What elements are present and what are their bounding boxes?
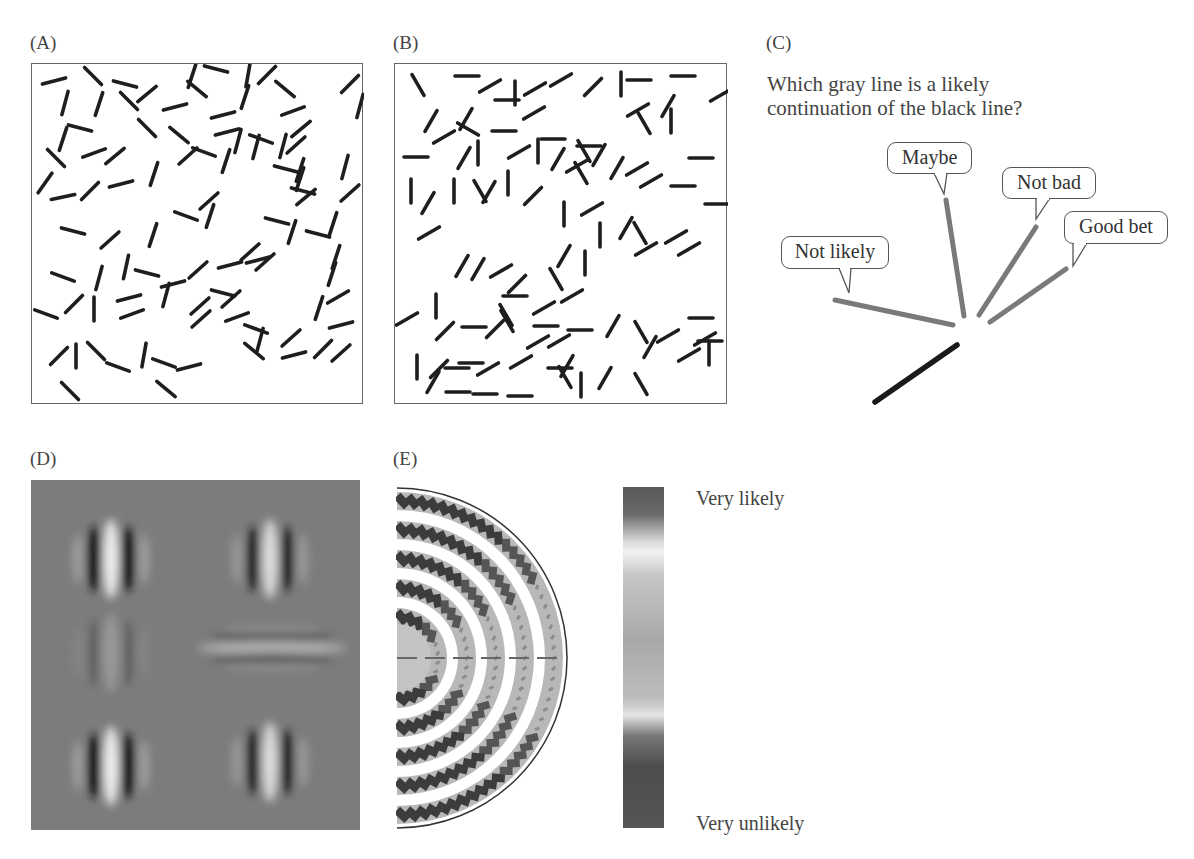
bubble-tail-join [840,267,850,270]
likelihood-colorbar [623,487,664,828]
panel-e-label: (E) [393,448,417,470]
speech-bubble-good-bet: Good bet [1064,211,1168,244]
bubble-tail [934,173,947,194]
panel-d-label: (D) [30,448,56,470]
association-field-map [396,486,568,831]
gabor-patches [31,480,360,830]
speech-bubble-maybe: Maybe [887,142,972,174]
panel-d-figure [31,480,360,830]
gray-candidate-line [946,200,964,316]
speech-bubble-not-likely: Not likely [781,236,889,269]
bubble-tail [839,268,851,293]
bubble-tail [1036,198,1050,219]
panel-e-figure [396,486,568,831]
bubble-tail-join [935,172,946,175]
bubble-tail [1073,243,1087,266]
gray-candidate-line [979,227,1036,315]
contour-continuation-diagram [0,0,1194,430]
colorbar-top-label: Very likely [696,487,784,510]
bubble-tail-join [1074,242,1086,245]
bubble-tail-join [1037,197,1049,200]
speech-bubble-not-bad: Not bad [1002,167,1096,199]
colorbar-bottom-label: Very unlikely [696,812,804,835]
black-reference-line [875,345,957,402]
gray-candidate-line [835,300,953,325]
